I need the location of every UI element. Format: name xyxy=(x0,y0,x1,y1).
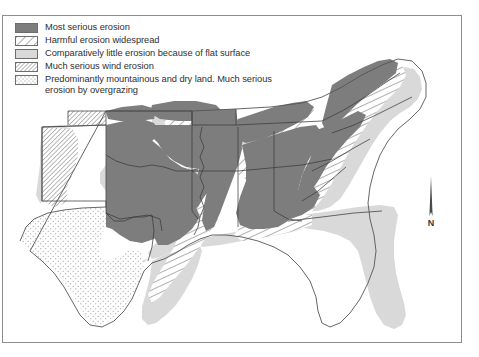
legend-item-wind-erosion: Much serious wind erosion xyxy=(15,61,305,72)
legend-label-wind-erosion: Much serious wind erosion xyxy=(45,61,154,72)
legend-swatch-diagonal-hatch xyxy=(15,36,38,46)
legend-swatch-light-gray xyxy=(15,49,38,59)
legend-item-little-erosion: Comparatively little erosion because of … xyxy=(15,48,305,59)
legend-swatch-fine-hatch xyxy=(15,62,38,72)
legend-label-widespread: Harmful erosion widespread xyxy=(45,35,159,46)
erosion-map-figure: Most serious erosion Harmful erosion wid… xyxy=(0,0,479,357)
compass-north-label: N xyxy=(420,218,442,228)
legend-item-most-serious: Most serious erosion xyxy=(15,22,305,33)
legend-swatch-solid-dark xyxy=(15,23,38,33)
legend-label-little-erosion: Comparatively little erosion because of … xyxy=(45,48,250,59)
legend-item-widespread: Harmful erosion widespread xyxy=(15,35,305,46)
north-arrow-icon xyxy=(420,176,442,220)
legend-label-mountainous-dry: Predominantly mountainous and dry land. … xyxy=(45,74,272,97)
legend-item-mountainous-dry: Predominantly mountainous and dry land. … xyxy=(15,74,305,97)
map-legend: Most serious erosion Harmful erosion wid… xyxy=(15,22,305,98)
legend-label-most-serious: Most serious erosion xyxy=(45,22,130,33)
legend-swatch-stipple xyxy=(15,75,38,85)
compass: N xyxy=(420,176,442,232)
